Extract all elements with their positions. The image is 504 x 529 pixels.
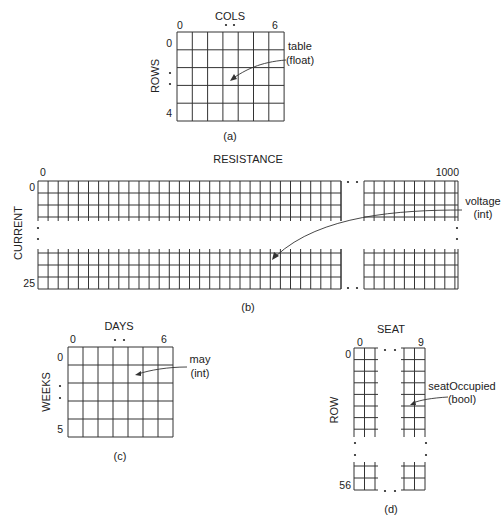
two-dimensional-arrays-figure: COLS 0 6 ROWS 0 4 table (float) (a) RESI… <box>0 0 504 529</box>
arrowhead-icon <box>410 400 416 405</box>
row-end-label: 5 <box>57 423 63 435</box>
array-type-label: (float) <box>286 54 314 66</box>
pointer-arrow <box>413 397 448 403</box>
col-start-label: 0 <box>177 19 183 31</box>
days-axis-label: DAYS <box>104 320 133 332</box>
caption-c: (c) <box>114 450 127 462</box>
row-axis-label: ROW <box>328 396 340 424</box>
ellipsis-dot <box>356 181 358 183</box>
array-name-label: may <box>190 353 211 365</box>
pointer-arrow <box>232 60 286 79</box>
array-name-label: voltage <box>465 195 500 207</box>
cols-axis-label: COLS <box>215 10 245 22</box>
ellipsis-dot <box>114 339 116 341</box>
ellipsis-dot <box>425 442 427 444</box>
rows-axis-label: ROWS <box>149 59 161 93</box>
table-grid <box>177 32 284 121</box>
row-end-label: 4 <box>166 107 172 119</box>
caption-d: (d) <box>384 503 397 515</box>
row-start-label: 0 <box>29 181 35 193</box>
caption-a: (a) <box>223 130 236 142</box>
ellipsis-dot <box>456 238 458 240</box>
row-start-label: 0 <box>57 351 63 363</box>
arrowhead-icon <box>230 74 237 81</box>
col-start-label: 0 <box>40 166 46 178</box>
seat-occupied-grid <box>354 348 425 490</box>
ellipsis-dot <box>347 287 349 289</box>
ellipsis-dot <box>169 83 171 85</box>
array-type-label: (bool) <box>448 393 476 405</box>
row-start-label: 0 <box>345 348 351 360</box>
current-axis-label: CURRENT <box>12 206 24 260</box>
col-start-label: 0 <box>70 333 76 345</box>
col-start-label: 0 <box>357 336 363 348</box>
col-end-label: 1000 <box>436 166 460 178</box>
ellipsis-dot <box>456 227 458 229</box>
array-name-label: table <box>288 40 312 52</box>
ellipsis-dot <box>123 339 125 341</box>
ellipsis-dot <box>425 454 427 456</box>
pointer-arrow <box>138 367 187 374</box>
ellipsis-dot <box>384 490 386 492</box>
ellipsis-dot <box>37 238 39 240</box>
voltage-grid <box>38 181 458 289</box>
ellipsis-dot <box>347 181 349 183</box>
ellipsis-dot <box>59 397 61 399</box>
ellipsis-dot <box>356 287 358 289</box>
ellipsis-dot <box>169 72 171 74</box>
ellipsis-dot <box>59 385 61 387</box>
row-end-label: 56 <box>339 479 351 491</box>
array-type-label: (int) <box>474 208 493 220</box>
resistance-axis-label: RESISTANCE <box>213 153 282 165</box>
col-end-label: 6 <box>272 19 278 31</box>
ellipsis-dot <box>37 227 39 229</box>
ellipsis-dot <box>384 349 386 351</box>
ellipsis-dot <box>354 454 356 456</box>
diagram-b: RESISTANCE 0 1000 CURRENT 0 25 voltage (… <box>12 153 501 313</box>
may-grid <box>68 347 173 437</box>
array-type-label: (int) <box>191 367 210 379</box>
seat-axis-label: SEAT <box>377 323 405 335</box>
arrowhead-icon <box>135 371 141 376</box>
diagram-a: COLS 0 6 ROWS 0 4 table (float) (a) <box>149 10 314 142</box>
weeks-axis-label: WEEKS <box>40 372 52 412</box>
diagram-d: SEAT 0 9 ROW 0 56 seatOccupied (bool) (d… <box>328 323 496 515</box>
ellipsis-dot <box>354 442 356 444</box>
ellipsis-dot <box>394 349 396 351</box>
ellipsis-dot <box>233 24 235 26</box>
row-start-label: 0 <box>166 37 172 49</box>
ellipsis-dot <box>225 24 227 26</box>
col-end-label: 9 <box>418 336 424 348</box>
array-name-label: seatOccupied <box>428 380 495 392</box>
diagram-c: DAYS 0 6 WEEKS 0 5 may (int) (c) <box>40 320 211 462</box>
ellipsis-dot <box>394 490 396 492</box>
caption-b: (b) <box>241 301 254 313</box>
row-end-label: 25 <box>23 277 35 289</box>
col-end-label: 6 <box>161 333 167 345</box>
